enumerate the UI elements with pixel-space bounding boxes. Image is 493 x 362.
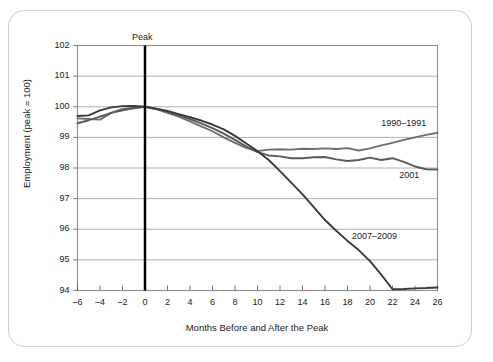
y-axis-title: Employment (peak = 100) bbox=[21, 44, 32, 224]
x-axis-tick-label: 14 bbox=[291, 298, 315, 307]
x-axis-tick-label: 6 bbox=[201, 298, 225, 307]
series-annotation-1: 1990–1991 bbox=[381, 118, 426, 128]
x-axis-tick-label: 2 bbox=[156, 298, 180, 307]
x-axis-tick-label: –4 bbox=[88, 298, 112, 307]
x-axis-tick-label: 0 bbox=[133, 298, 157, 307]
x-axis-tick-label: 24 bbox=[403, 298, 427, 307]
x-axis-tick-label: 4 bbox=[178, 298, 202, 307]
x-axis-tick-label: 8 bbox=[223, 298, 247, 307]
chart-figure: 949596979899100101102 –6–4–2024681012141… bbox=[0, 0, 493, 362]
chart-page: 949596979899100101102 –6–4–2024681012141… bbox=[0, 0, 493, 362]
x-axis-tick-label: –6 bbox=[66, 298, 90, 307]
series-annotation-2: 2001 bbox=[399, 170, 419, 180]
x-axis-tick-label: 26 bbox=[426, 298, 450, 307]
x-axis-tick-label: 20 bbox=[358, 298, 382, 307]
x-axis-tick-label: 22 bbox=[381, 298, 405, 307]
series-annotation-3: 2007–2009 bbox=[352, 231, 397, 241]
x-axis-tick-label: 12 bbox=[268, 298, 292, 307]
x-axis-tick-labels: –6–4–202468101214161820222426 bbox=[0, 0, 493, 362]
x-axis-tick-label: –2 bbox=[111, 298, 135, 307]
x-axis-tick-label: 18 bbox=[336, 298, 360, 307]
x-axis-tick-label: 16 bbox=[313, 298, 337, 307]
peak-annotation-label: Peak bbox=[132, 32, 153, 42]
x-axis-tick-label: 10 bbox=[246, 298, 270, 307]
x-axis-title: Months Before and After the Peak bbox=[77, 322, 437, 333]
